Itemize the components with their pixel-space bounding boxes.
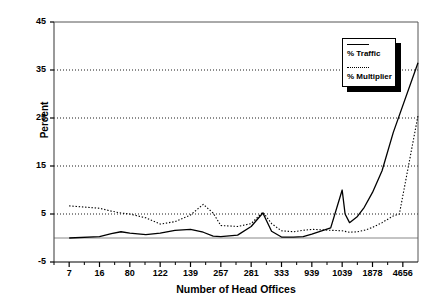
chart-legend: % Traffic % Multiplier [342, 38, 396, 87]
y-tick-15: 15 [24, 160, 46, 170]
x-axis-title: Number of Head Offices [54, 283, 418, 295]
legend-entry-traffic: % Traffic [347, 42, 395, 58]
legend-swatch-solid-icon [347, 42, 369, 47]
y-tick-25: 25 [24, 112, 46, 122]
legend-entry-multiplier: % Multiplier [347, 65, 395, 81]
y-tick-5: 5 [24, 208, 46, 218]
y-tick--5: -5 [24, 256, 46, 266]
y-tick-35: 35 [24, 64, 46, 74]
x-tick-4656: 4656 [383, 268, 423, 278]
legend-label-multiplier: % Multiplier [347, 72, 395, 81]
legend-label-traffic: % Traffic [347, 49, 395, 58]
y-tick-45: 45 [24, 16, 46, 26]
legend-swatch-dotted-icon [347, 65, 369, 70]
chart-figure: Percent Number of Head Offices -55152535… [0, 0, 442, 304]
